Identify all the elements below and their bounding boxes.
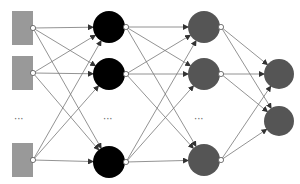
hidden1-node: [93, 58, 125, 90]
edge: [33, 160, 93, 162]
edge: [33, 86, 98, 160]
edge: [221, 27, 271, 108]
edge: [221, 27, 267, 65]
ellipsis-label: ···: [14, 114, 24, 124]
input-node: [12, 56, 33, 90]
hidden2-node: [188, 11, 220, 43]
neural-network-diagram: [0, 0, 300, 184]
hidden1-node: [93, 146, 125, 178]
network-nodes: [12, 11, 294, 178]
ellipsis-label: ···: [194, 114, 204, 124]
port-dot: [123, 24, 128, 29]
edge: [126, 27, 190, 66]
hidden1-node: [93, 11, 125, 43]
input-node: [12, 143, 33, 177]
output-node: [264, 106, 294, 136]
edge: [221, 129, 267, 160]
hidden2-node: [188, 144, 220, 176]
edge: [33, 73, 93, 74]
ellipsis-label: ···: [103, 114, 113, 124]
port-dot: [30, 70, 35, 75]
port-dot: [218, 71, 223, 76]
port-dot: [123, 71, 128, 76]
port-dot: [30, 25, 35, 30]
edge: [33, 28, 101, 148]
connection-edges: [33, 27, 271, 162]
output-node: [264, 59, 294, 89]
edge: [126, 160, 188, 162]
edge: [33, 41, 101, 160]
edge: [33, 73, 99, 150]
edge: [33, 27, 93, 28]
edge: [221, 86, 271, 160]
edge: [221, 74, 267, 112]
port-dot: [123, 159, 128, 164]
input-node: [12, 11, 33, 45]
port-dot: [30, 157, 35, 162]
port-dot: [218, 24, 223, 29]
port-dot: [218, 157, 223, 162]
edge: [33, 28, 95, 66]
edge: [126, 27, 196, 146]
edge: [126, 41, 196, 162]
hidden2-node: [188, 58, 220, 90]
